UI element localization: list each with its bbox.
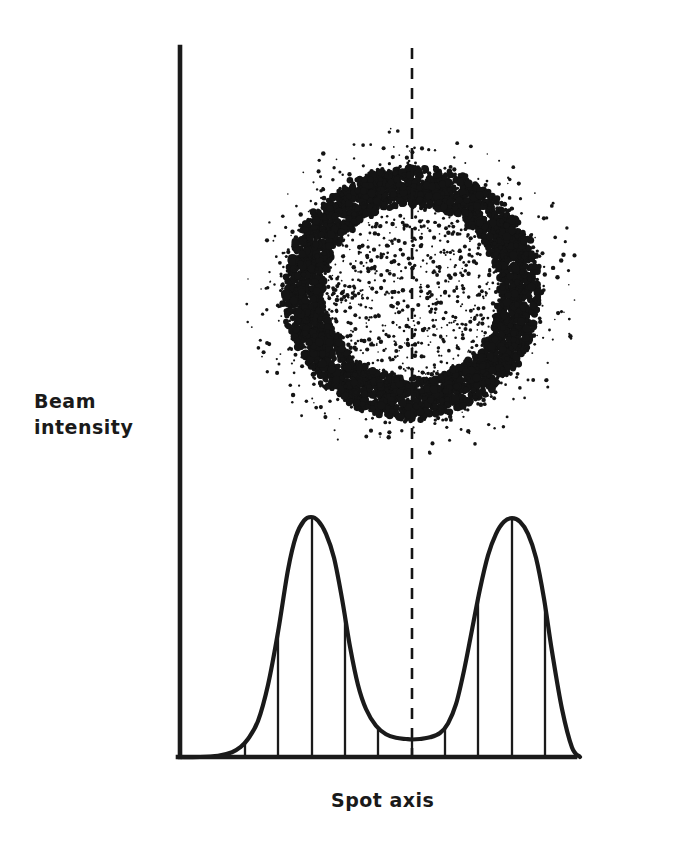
y-axis-label: Beam intensity bbox=[34, 388, 133, 440]
x-axis-label: Spot axis bbox=[331, 789, 434, 811]
